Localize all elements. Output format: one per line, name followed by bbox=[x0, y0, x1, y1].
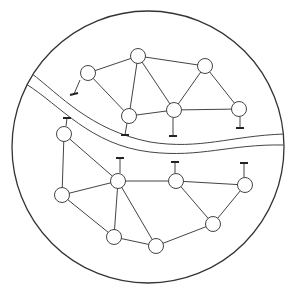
node-D bbox=[122, 109, 137, 124]
link-J-N bbox=[176, 181, 213, 224]
link-G-H bbox=[62, 134, 64, 195]
node-K bbox=[238, 178, 253, 193]
node-I bbox=[111, 174, 126, 189]
link-H-I bbox=[62, 181, 118, 195]
ground-stub-A bbox=[74, 80, 80, 94]
node-E bbox=[167, 103, 182, 118]
link-A-D bbox=[88, 73, 129, 116]
link-L-N bbox=[156, 224, 213, 246]
node-G bbox=[57, 127, 72, 142]
link-I-M bbox=[114, 181, 118, 237]
link-B-C bbox=[138, 56, 205, 66]
link-B-E bbox=[138, 56, 174, 110]
ground-bar-icon bbox=[70, 93, 78, 95]
node-M bbox=[107, 230, 122, 245]
ground-stubs bbox=[63, 80, 248, 177]
node-N bbox=[206, 217, 221, 232]
node-F bbox=[232, 102, 247, 117]
link-H-M bbox=[62, 195, 114, 237]
link-E-C bbox=[174, 66, 205, 110]
link-I-L bbox=[118, 181, 156, 246]
node-H bbox=[55, 188, 70, 203]
node-L bbox=[149, 239, 164, 254]
ground-stub-D bbox=[125, 123, 127, 135]
link-J-K bbox=[176, 181, 245, 185]
link-C-F bbox=[205, 66, 239, 109]
ground-stub-G bbox=[66, 118, 67, 126]
node-B bbox=[131, 49, 146, 64]
node-C bbox=[198, 59, 213, 74]
link-B-D bbox=[129, 56, 138, 116]
node-A bbox=[81, 66, 96, 81]
node-J bbox=[169, 174, 184, 189]
network-diagram bbox=[0, 0, 291, 296]
link-E-F bbox=[174, 109, 239, 110]
